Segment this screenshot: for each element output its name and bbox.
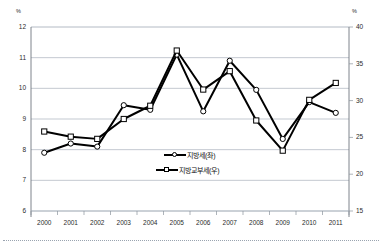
x-axis-tick-label: 2004: [137, 219, 163, 226]
x-axis-tick-label: 2002: [84, 219, 110, 226]
x-axis-tick-label: 2005: [164, 219, 190, 226]
y-axis-tick-label: 6: [12, 207, 26, 214]
x-axis-tick-label: 2000: [31, 219, 57, 226]
y2-axis-tick-label: 35: [356, 60, 372, 67]
y-axis-tick-label: 9: [12, 115, 26, 122]
y2-axis-tick-label: 15: [356, 207, 372, 214]
legend-label-local-grant-tax: 지방교부세(우): [178, 165, 220, 175]
legend-label-local-tax: 지방세(좌): [186, 150, 216, 160]
legend-marker-square-icon: [156, 165, 178, 174]
plot-area: [0, 0, 382, 250]
footer-divider: [3, 240, 379, 241]
y2-axis-tick-label: 40: [356, 23, 372, 30]
x-axis-tick-label: 2006: [190, 219, 216, 226]
x-axis-tick-label: 2008: [243, 219, 269, 226]
line-chart: % % 지방세(좌) 지방교부세(우) 12111098764035302520…: [0, 0, 382, 250]
y-axis-tick-label: 8: [12, 146, 26, 153]
x-axis-tick-label: 2010: [296, 219, 322, 226]
x-axis-tick-label: 2007: [217, 219, 243, 226]
x-axis-tick-label: 2001: [58, 219, 84, 226]
y-axis-tick-label: 7: [12, 176, 26, 183]
y-axis-tick-label: 12: [12, 23, 26, 30]
y2-axis-tick-label: 20: [356, 170, 372, 177]
y-axis-tick-label: 11: [12, 54, 26, 61]
x-axis-tick-label: 2009: [270, 219, 296, 226]
chart-legend: 지방세(좌) 지방교부세(우): [154, 147, 252, 183]
y2-axis-tick-label: 25: [356, 133, 372, 140]
y2-axis-tick-label: 30: [356, 97, 372, 104]
x-axis-tick-label: 2011: [323, 219, 349, 226]
legend-item-local-grant-tax: 지방교부세(우): [154, 162, 252, 177]
legend-item-local-tax: 지방세(좌): [154, 147, 252, 162]
y-axis-tick-label: 10: [12, 84, 26, 91]
x-axis-tick-label: 2003: [111, 219, 137, 226]
legend-marker-circle-icon: [164, 150, 186, 159]
